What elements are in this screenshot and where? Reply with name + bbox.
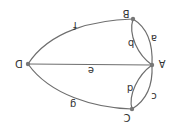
edge-label-f: f xyxy=(73,20,77,31)
multigraph-diagram: A B C D a b c d e f g xyxy=(0,0,177,124)
node-b xyxy=(131,17,135,21)
edge-a xyxy=(133,19,152,65)
edge-label-e: e xyxy=(88,65,94,76)
edge-f xyxy=(28,19,133,64)
edge-label-b: b xyxy=(128,38,134,49)
node-d xyxy=(26,62,30,66)
node-label-b: B xyxy=(122,8,129,19)
node-c xyxy=(130,107,134,111)
node-a xyxy=(150,63,154,67)
edge-label-d: d xyxy=(127,83,133,94)
edge-label-c: c xyxy=(151,91,157,102)
edge-d xyxy=(131,65,152,109)
node-label-d: D xyxy=(15,58,23,69)
edge-label-g: g xyxy=(70,99,76,110)
edge-g xyxy=(28,64,132,109)
edge-e xyxy=(28,64,152,65)
node-label-a: A xyxy=(158,58,165,69)
node-label-c: C xyxy=(123,112,130,123)
edge-label-a: a xyxy=(151,33,157,44)
